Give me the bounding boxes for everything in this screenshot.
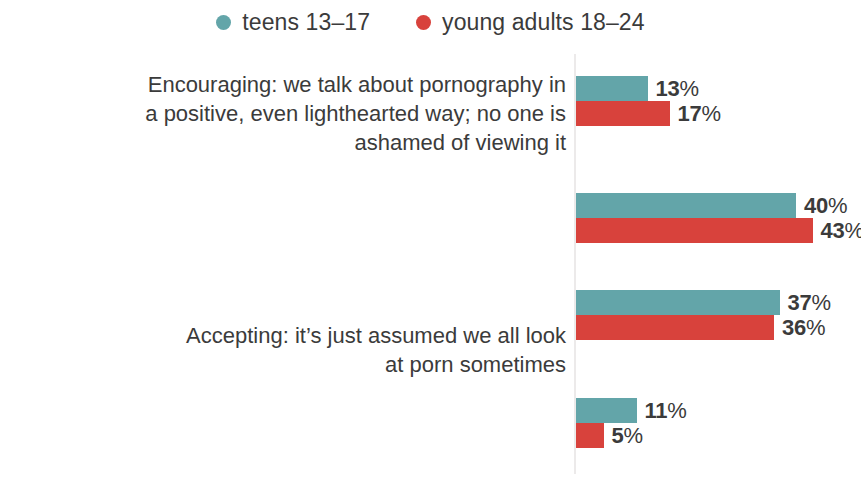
bar[interactable] [576, 218, 813, 243]
bar-value-percent-sign: % [667, 398, 686, 423]
bar-row[interactable]: 36% [576, 315, 825, 340]
bar[interactable] [576, 423, 604, 448]
bar-value-percent-sign: % [679, 76, 698, 101]
bar-value-number: 13 [656, 76, 680, 101]
chart-plot-area: Encouraging: we talk about pornography i… [0, 50, 861, 479]
bar-value-label: 11% [645, 398, 687, 424]
bar-row[interactable]: 40% [576, 193, 847, 218]
category-label: Encouraging: we talk about pornography i… [26, 70, 566, 157]
bar-value-number: 11 [645, 398, 668, 423]
bar-value-number: 43 [821, 218, 845, 243]
category-label-line: ashamed of viewing it [26, 128, 566, 157]
legend-item-label: teens 13–17 [242, 9, 370, 36]
bar-row[interactable]: 17% [576, 101, 721, 126]
bar-value-number: 17 [678, 101, 702, 126]
legend-item[interactable]: young adults 18–24 [416, 9, 645, 36]
bar-row[interactable]: 13% [576, 76, 699, 101]
bar[interactable] [576, 290, 780, 315]
bar-value-label: 43% [821, 218, 861, 244]
bar-value-number: 5 [612, 423, 624, 448]
bar-value-label: 37% [788, 290, 831, 316]
bar-value-number: 36 [782, 315, 806, 340]
bar-value-label: 36% [782, 315, 825, 341]
bar-row[interactable]: 43% [576, 218, 861, 243]
bar-value-label: 13% [656, 76, 699, 102]
legend-item[interactable]: teens 13–17 [216, 9, 370, 36]
bar[interactable] [576, 193, 796, 218]
bar-value-percent-sign: % [806, 315, 825, 340]
bar-group: Accepting: it’s just assumed we all look… [0, 183, 861, 279]
category-label-line: a positive, even lighthearted way; no on… [26, 99, 566, 128]
bar[interactable] [576, 101, 670, 126]
legend-item-label: young adults 18–24 [442, 9, 645, 36]
bar-value-label: 5% [612, 423, 643, 449]
bar-row[interactable]: 5% [576, 423, 643, 448]
bar[interactable] [576, 315, 774, 340]
bar-value-percent-sign: % [811, 290, 830, 315]
chart-legend: teens 13–17young adults 18–24 [0, 0, 861, 44]
bar-group: Encouraging: we talk about pornography i… [0, 62, 861, 158]
bar-value-percent-sign: % [828, 193, 847, 218]
bar-group: Neutral: we don't really discuss the mor… [0, 283, 861, 379]
bar-value-number: 37 [788, 290, 812, 315]
legend-dot-icon [416, 15, 431, 30]
bar-value-percent-sign: % [623, 423, 642, 448]
bar-value-label: 17% [678, 101, 721, 127]
bar-group: Disagreeable: my friends think viewingpo… [0, 387, 861, 479]
bar[interactable] [576, 76, 648, 101]
bar[interactable] [576, 398, 637, 423]
bar-value-percent-sign: % [701, 101, 720, 126]
bar-row[interactable]: 37% [576, 290, 831, 315]
bar-row[interactable]: 11% [576, 398, 686, 423]
bar-value-percent-sign: % [844, 218, 861, 243]
bar-value-label: 40% [804, 193, 847, 219]
legend-dot-icon [216, 15, 231, 30]
category-label-line: Encouraging: we talk about pornography i… [26, 70, 566, 99]
bar-value-number: 40 [804, 193, 828, 218]
